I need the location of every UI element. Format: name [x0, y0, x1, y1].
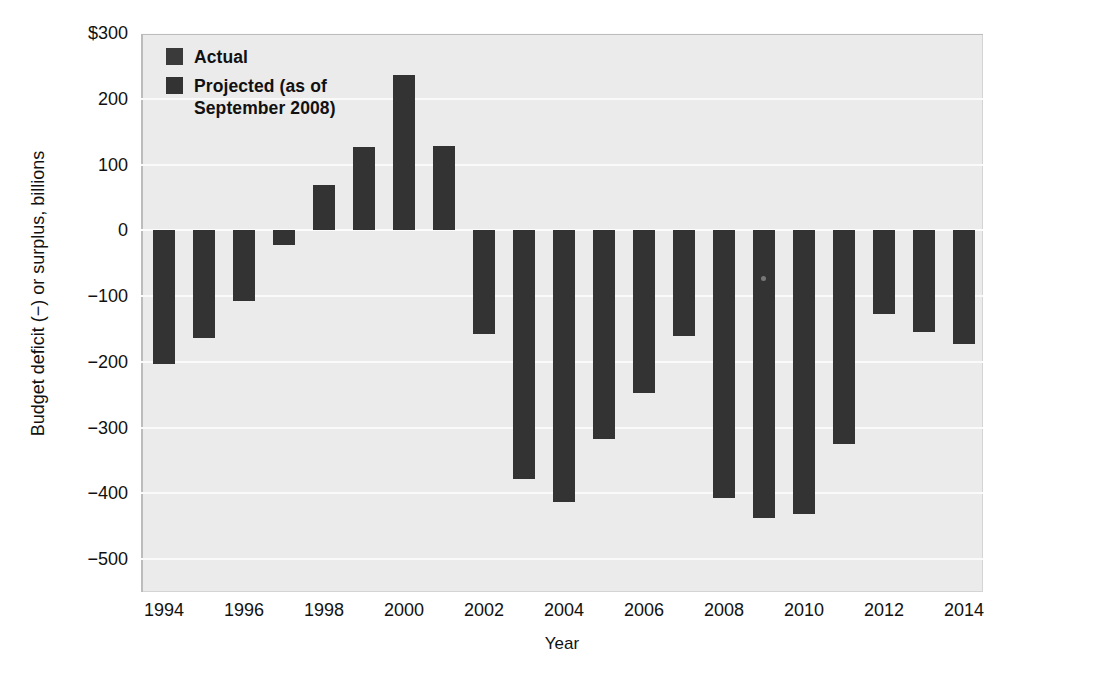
y-axis-title: Budget deficit (−) or surplus, billions	[28, 24, 49, 564]
plot-area: Actual Projected (as of September 2008)	[141, 33, 983, 592]
legend-item-actual: Actual	[166, 46, 416, 68]
x-axis-tick-label: 2010	[759, 600, 849, 621]
gridline	[141, 558, 983, 560]
x-axis-tick-label: 2014	[919, 600, 1009, 621]
bar-2005	[593, 230, 615, 439]
legend: Actual Projected (as of September 2008)	[166, 46, 416, 127]
bar-2011	[833, 230, 855, 444]
x-axis-tick-label: 2012	[839, 600, 929, 621]
bar-2002	[473, 230, 495, 334]
x-axis-tick-label: 2002	[439, 600, 529, 621]
bar-2007	[673, 230, 695, 336]
bar-2012	[873, 230, 895, 314]
bar-1998	[313, 185, 335, 230]
bar-2004	[553, 230, 575, 502]
gridline	[141, 164, 983, 166]
x-axis-tick-label: 1998	[279, 600, 369, 621]
x-axis-tick-label: 1996	[199, 600, 289, 621]
legend-label-projected: Projected (as of September 2008)	[194, 75, 336, 119]
x-axis-tick-label: 2004	[519, 600, 609, 621]
x-axis-title: Year	[141, 634, 983, 654]
bar-2008	[713, 230, 735, 498]
legend-label-actual: Actual	[194, 46, 248, 68]
bar-1997	[273, 230, 295, 244]
x-axis-tick-label: 2000	[359, 600, 449, 621]
gridline	[141, 33, 983, 34]
bar-2006	[633, 230, 655, 393]
legend-item-projected: Projected (as of September 2008)	[166, 75, 416, 119]
bar-1994	[153, 230, 175, 364]
bar-2013	[913, 230, 935, 332]
x-axis-tick-label: 2008	[679, 600, 769, 621]
x-axis-tick-label: 2006	[599, 600, 689, 621]
bar-1999	[353, 147, 375, 230]
bar-1996	[233, 230, 255, 300]
bar-2003	[513, 230, 535, 479]
legend-swatch-icon-actual	[166, 48, 183, 65]
budget-deficit-bar-chart: Budget deficit (−) or surplus, billions …	[0, 0, 1098, 697]
x-axis-tick-label: 1994	[119, 600, 209, 621]
bar-2009	[753, 230, 775, 518]
bar-1995	[193, 230, 215, 338]
bar-2010	[793, 230, 815, 514]
bar-2014	[953, 230, 975, 344]
legend-swatch-icon-projected	[166, 77, 183, 94]
bar-2001	[433, 146, 455, 230]
